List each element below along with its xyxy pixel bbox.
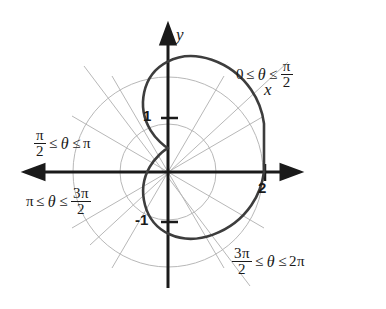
- q4-relation-1: ≤: [253, 254, 266, 269]
- q3-start: π: [26, 194, 34, 209]
- q1-relation-2: ≤: [267, 67, 280, 82]
- y-tick-label-negative-1: -1: [135, 212, 148, 227]
- y-tick-label-1: 1: [143, 108, 151, 123]
- q3-end-denominator: 2: [71, 202, 91, 217]
- q4-relation-2: ≤: [276, 254, 289, 269]
- y-axis-arrow-up: [161, 25, 175, 44]
- polar-cardioid-figure: y x 1 -1 2 0≤θ≤π2 π2≤θ≤π π≤θ≤3π2 3π2≤θ≤2…: [0, 0, 386, 309]
- range-label-quadrant-4: 3π2≤θ≤2π: [231, 246, 305, 278]
- q1-variable: θ: [257, 67, 267, 83]
- q2-start-denominator: 2: [34, 144, 46, 159]
- x-axis-arrow-right: [281, 165, 300, 179]
- q3-relation-1: ≤: [34, 194, 47, 209]
- q2-variable: θ: [60, 136, 70, 152]
- q4-start-numerator: 3π: [232, 246, 252, 262]
- q1-end-numerator: π: [281, 59, 293, 75]
- q3-end-numerator: 3π: [71, 186, 91, 202]
- q4-end: 2π: [289, 254, 305, 269]
- q4-variable: θ: [266, 254, 276, 270]
- q2-relation-2: ≤: [70, 136, 83, 151]
- q2-relation-1: ≤: [47, 136, 60, 151]
- q3-relation-2: ≤: [57, 194, 70, 209]
- q4-start-denominator: 2: [232, 262, 252, 277]
- range-label-quadrant-3: π≤θ≤3π2: [26, 186, 92, 218]
- q3-end-fraction: 3π2: [71, 186, 91, 218]
- range-label-quadrant-2: π2≤θ≤π: [33, 128, 91, 160]
- y-axis-label: y: [176, 26, 184, 43]
- q4-start-fraction: 3π2: [232, 246, 252, 278]
- x-axis-arrow-left: [25, 165, 44, 179]
- q1-relation-1: ≤: [244, 67, 257, 82]
- q2-start-fraction: π2: [34, 128, 46, 160]
- q2-start-numerator: π: [34, 128, 46, 144]
- q1-end-fraction: π2: [281, 59, 293, 91]
- q2-end: π: [83, 136, 91, 151]
- q1-end-denominator: 2: [281, 75, 293, 90]
- q3-variable: θ: [47, 194, 57, 210]
- q1-start: 0: [236, 67, 244, 82]
- range-label-quadrant-1: 0≤θ≤π2: [236, 59, 294, 91]
- x-tick-label-2: 2: [258, 180, 266, 195]
